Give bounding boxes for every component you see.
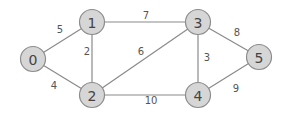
weighted-graph-diagram: 5427610389 012345 bbox=[0, 0, 287, 115]
node-1: 1 bbox=[80, 10, 105, 35]
edge-weight-0-1: 5 bbox=[57, 24, 63, 35]
edge-weight-0-2: 4 bbox=[51, 80, 57, 91]
node-4: 4 bbox=[186, 83, 211, 108]
node-5: 5 bbox=[247, 45, 272, 70]
node-label: 0 bbox=[29, 52, 38, 68]
node-3: 3 bbox=[186, 10, 211, 35]
node-2: 2 bbox=[80, 83, 105, 108]
node-0: 0 bbox=[21, 47, 46, 72]
node-label: 5 bbox=[255, 50, 264, 66]
edge-weight-1-3: 7 bbox=[143, 10, 149, 21]
edge-weight-1-2: 2 bbox=[84, 46, 90, 57]
node-label: 4 bbox=[194, 88, 203, 104]
edge-weight-2-3: 6 bbox=[138, 46, 144, 57]
edge-weight-2-4: 10 bbox=[145, 95, 158, 106]
edge-2-3 bbox=[92, 22, 198, 95]
edges-group bbox=[33, 22, 259, 95]
edge-weight-4-5: 9 bbox=[233, 83, 239, 94]
edge-weight-3-4: 3 bbox=[204, 52, 210, 63]
node-label: 3 bbox=[194, 15, 203, 31]
node-label: 2 bbox=[88, 88, 97, 104]
edge-weight-3-5: 8 bbox=[234, 27, 240, 38]
node-label: 1 bbox=[88, 15, 97, 31]
